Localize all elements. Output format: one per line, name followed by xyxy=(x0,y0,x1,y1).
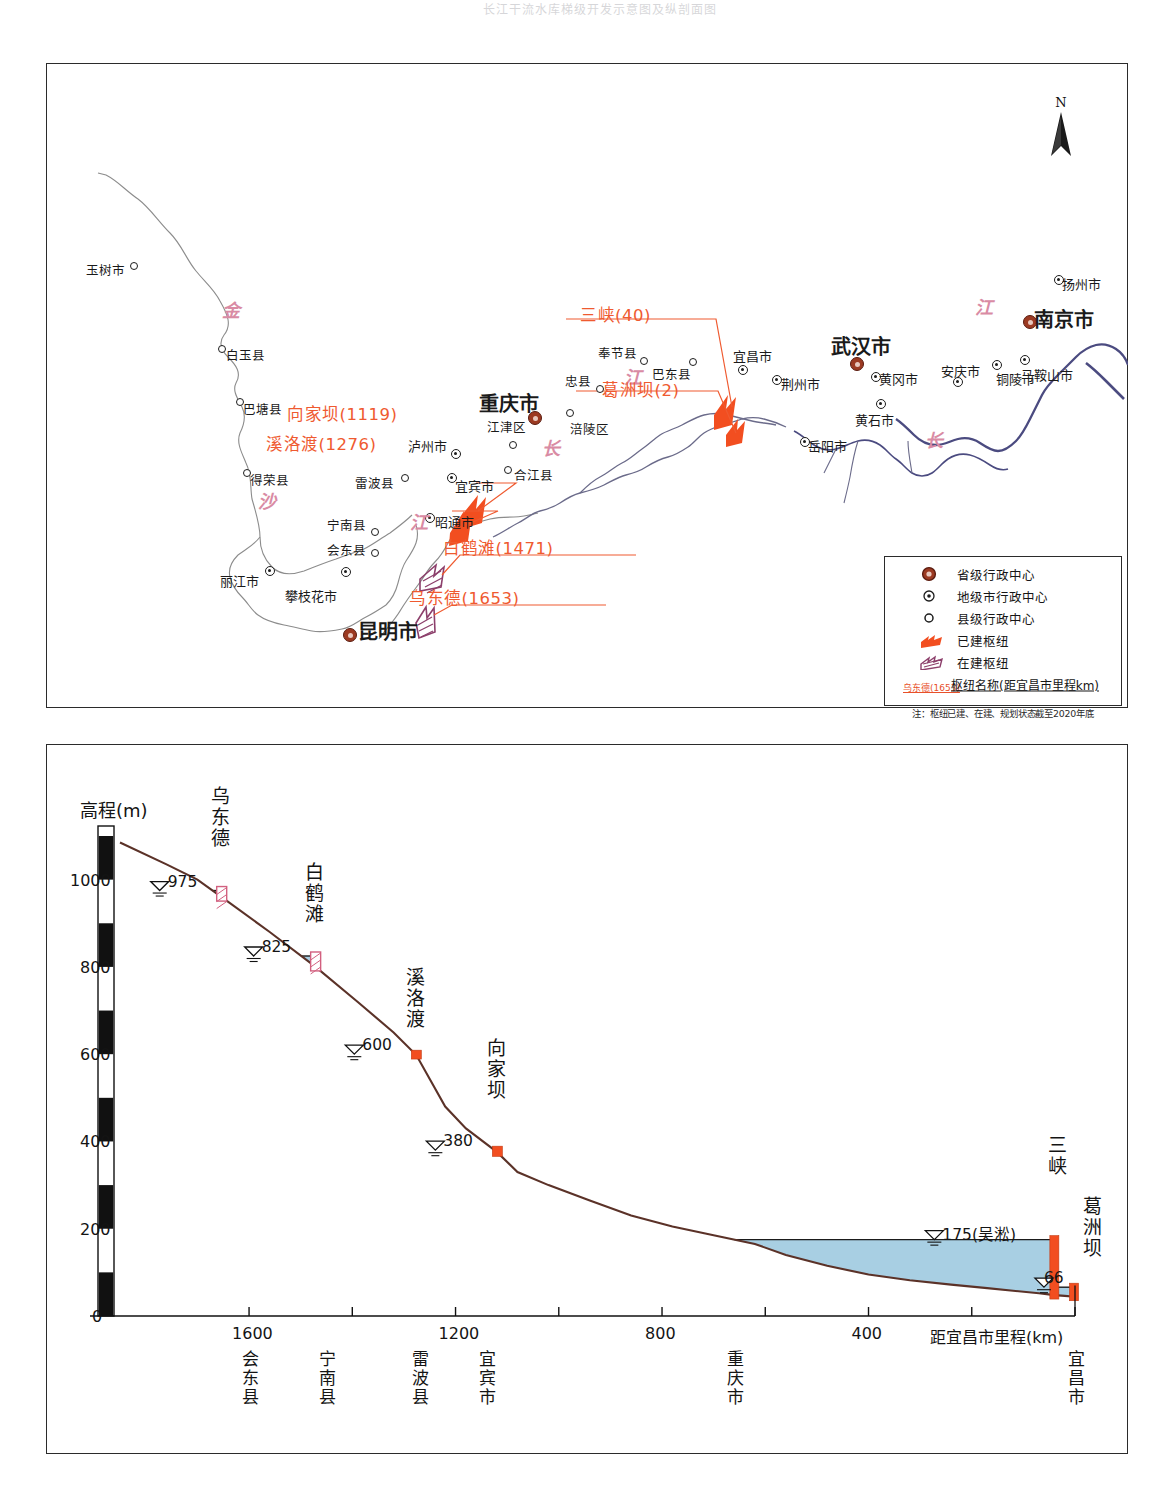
x-city-label-重庆市: 重庆市 xyxy=(725,1350,742,1407)
riverbed-line xyxy=(120,843,1075,1297)
y-axis-bar xyxy=(98,826,114,1316)
y-tick-label-200: 200 xyxy=(80,1220,111,1239)
y-tick-label-1000: 1000 xyxy=(70,871,111,890)
x-tick-label-1200: 1200 xyxy=(439,1324,480,1343)
water-level-marker-白鹤滩 xyxy=(245,947,263,956)
x-tick-label-1600: 1600 xyxy=(232,1324,273,1343)
water-level-label-三峡: 175(吴淞) xyxy=(942,1222,1016,1244)
y-tick-label-400: 400 xyxy=(80,1132,111,1151)
x-tick-label-400: 400 xyxy=(852,1324,883,1343)
water-level-marker-三峡 xyxy=(925,1231,943,1240)
dam-name-乌东德: 乌东德 xyxy=(210,786,229,849)
x-city-label-宁南县: 宁南县 xyxy=(317,1350,334,1407)
water-level-label-白鹤滩: 825 xyxy=(262,938,292,956)
y-tick-label-0: 0 xyxy=(92,1307,102,1326)
water-level-marker-乌东德 xyxy=(151,882,169,891)
water-level-label-溪洛渡: 600 xyxy=(362,1036,392,1054)
x-tick-label-800: 800 xyxy=(645,1324,676,1343)
y-tick-label-800: 800 xyxy=(80,958,111,977)
reservoir-pool-三峡 xyxy=(734,1240,1054,1296)
x-city-label-会东县: 会东县 xyxy=(240,1350,257,1407)
dam-name-三峡: 三峡 xyxy=(1046,1135,1065,1177)
dam-body-三峡 xyxy=(1050,1236,1059,1299)
y-axis-title: 高程(m) xyxy=(80,796,148,822)
dam-body-向家坝 xyxy=(492,1146,502,1156)
water-level-marker-溪洛渡 xyxy=(345,1045,363,1054)
dam-body-白鹤滩 xyxy=(311,952,321,974)
dam-name-向家坝: 向家坝 xyxy=(485,1038,504,1101)
x-city-label-宜昌市: 宜昌市 xyxy=(1066,1350,1083,1407)
water-level-label-向家坝: 380 xyxy=(443,1132,473,1150)
dam-body-葛洲坝 xyxy=(1069,1283,1078,1301)
x-axis-title: 距宜昌市里程(km) xyxy=(930,1324,1063,1348)
dam-body-溪洛渡 xyxy=(411,1050,421,1059)
x-city-label-雷波县: 雷波县 xyxy=(410,1350,427,1407)
dam-name-溪洛渡: 溪洛渡 xyxy=(404,967,423,1030)
x-city-label-宜宾市: 宜宾市 xyxy=(478,1350,495,1407)
dam-name-白鹤滩: 白鹤滩 xyxy=(304,862,323,925)
water-level-label-乌东德: 975 xyxy=(168,873,198,891)
dam-name-葛洲坝: 葛洲坝 xyxy=(1082,1196,1101,1259)
y-tick-label-600: 600 xyxy=(80,1045,111,1064)
water-level-marker-向家坝 xyxy=(426,1141,444,1150)
water-level-label-葛洲坝: 66 xyxy=(1044,1269,1064,1287)
dam-body-乌东德 xyxy=(217,887,227,909)
profile-svg xyxy=(0,0,1174,1497)
